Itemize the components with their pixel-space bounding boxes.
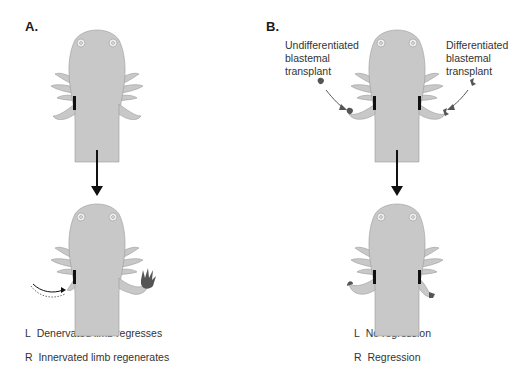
axolotl-b-before	[347, 30, 449, 162]
regression-arrowhead	[61, 287, 66, 293]
undiff-transplant-free	[318, 78, 324, 84]
undiff-blastema-graft	[347, 108, 353, 114]
left-forelimb	[53, 104, 75, 120]
right-forelimb	[119, 104, 141, 120]
diagram-canvas: .fill{fill:#c8c8c8;stroke:#9a9a9a;stroke…	[0, 0, 520, 373]
axolotl-a-before	[51, 30, 143, 162]
nerve-cut-mark-left	[373, 96, 376, 110]
nerve-cut-mark-right	[418, 96, 421, 110]
right-forelimb	[419, 104, 445, 119]
left-forelimb	[349, 104, 375, 119]
left-forelimb	[349, 278, 375, 294]
axolotl-a-after	[31, 204, 156, 336]
regenerated-hand	[141, 268, 156, 289]
nerve-cut-mark	[73, 96, 76, 110]
right-blastema	[429, 292, 435, 298]
axolotl-b-after	[347, 204, 443, 336]
nerve-cut-mark-left	[373, 270, 376, 284]
regression-arrow	[33, 284, 63, 292]
nerve-cut-mark-right	[418, 270, 421, 284]
nerve-cut-mark	[73, 270, 76, 284]
diff-transplant-free	[470, 78, 476, 86]
